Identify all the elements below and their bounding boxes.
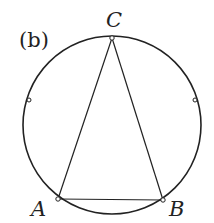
point-c <box>110 36 114 40</box>
vertex-label-a: A <box>31 199 46 220</box>
vertex-label-c: C <box>106 10 122 31</box>
point-a <box>56 197 60 201</box>
circumcircle <box>23 36 201 214</box>
point-right-mark <box>193 98 197 102</box>
side-ab <box>58 199 163 200</box>
side-bc <box>112 38 163 200</box>
point-b <box>161 198 165 202</box>
point-left-mark <box>27 98 31 102</box>
side-ac <box>58 38 112 199</box>
vertex-label-b: B <box>169 199 184 220</box>
panel-label: (b) <box>19 30 49 51</box>
